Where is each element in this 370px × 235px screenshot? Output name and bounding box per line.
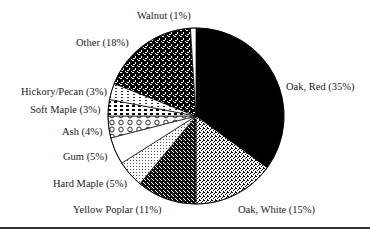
label-gum: Gum (5%) — [63, 151, 108, 163]
pie-chart — [0, 0, 370, 235]
label-walnut: Walnut (1%) — [137, 10, 191, 22]
bottom-rule — [0, 227, 370, 229]
label-oak-white: Oak, White (15%) — [238, 204, 315, 216]
label-hickory-pecan: Hickory/Pecan (3%) — [21, 86, 107, 98]
label-oak-red: Oak, Red (35%) — [286, 81, 355, 93]
label-ash: Ash (4%) — [62, 126, 103, 138]
label-hard-maple: Hard Maple (5%) — [53, 178, 127, 190]
label-soft-maple: Soft Maple (3%) — [30, 104, 101, 116]
pie-slices — [108, 28, 284, 204]
label-yellow-poplar: Yellow Poplar (11%) — [73, 204, 161, 216]
label-other: Other (18%) — [76, 37, 129, 49]
